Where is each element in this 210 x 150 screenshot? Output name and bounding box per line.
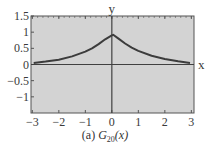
x-axis-label: x: [198, 57, 205, 72]
y-tick-label: 0: [23, 58, 29, 72]
caption-subscript: 20: [107, 135, 115, 144]
y-tick-label: 0.5: [14, 41, 29, 55]
caption-prefix: (a): [82, 128, 98, 142]
x-tick-label: 0: [109, 115, 115, 129]
y-tick-label: −1: [16, 90, 29, 104]
y-axis-label: y: [109, 1, 116, 16]
x-tick-label: −3: [26, 115, 39, 129]
x-tick-label: −1: [79, 115, 92, 129]
y-tick-label: 1.5: [14, 9, 29, 23]
y-tick-label: −0.5: [7, 74, 29, 88]
x-tick-label: 1: [135, 115, 141, 129]
y-tick-label: 1: [23, 25, 29, 39]
x-tick-label: 3: [188, 115, 194, 129]
caption-argument: (x): [115, 128, 128, 142]
x-tick-label: 2: [162, 115, 168, 129]
chart-caption: (a) G20(x): [0, 128, 210, 144]
x-tick-label: −2: [52, 115, 65, 129]
caption-function: G: [98, 128, 107, 142]
